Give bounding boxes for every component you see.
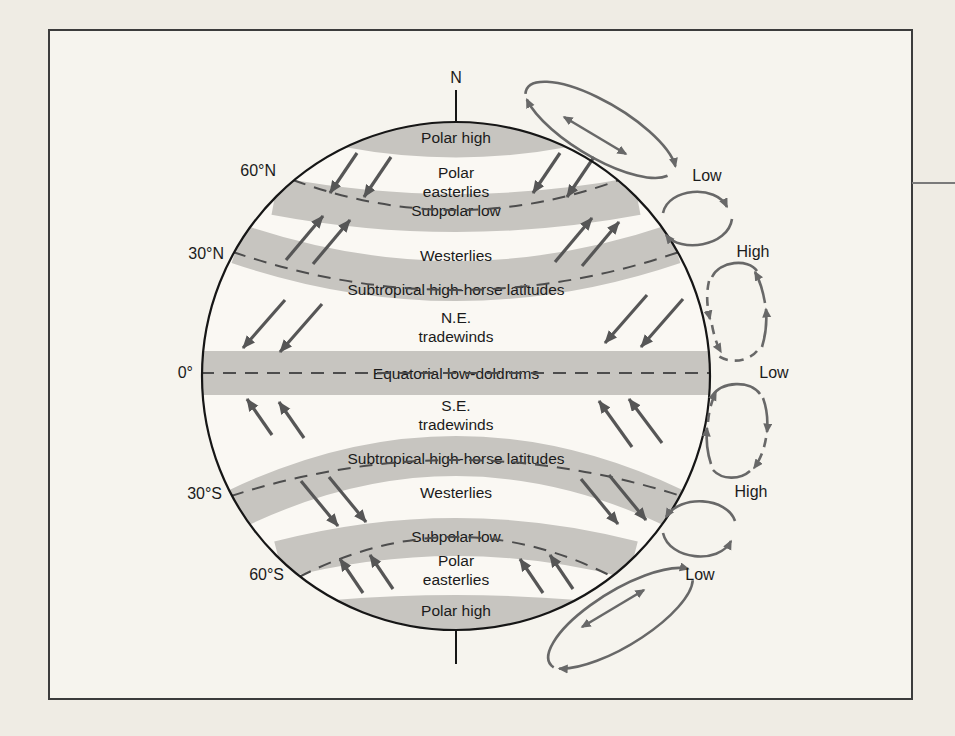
belt-label-polar-easterlies-s-1: Polar	[438, 552, 474, 569]
belt-label-polar-high-n: Polar high	[421, 129, 491, 146]
latitude-label-60n: 60°N	[240, 162, 276, 179]
belt-label-polar-easterlies-s-2: easterlies	[423, 571, 490, 588]
belt-label-westerlies-n: Westerlies	[420, 247, 492, 264]
belt-label-se-trades-1: S.E.	[441, 397, 470, 414]
scanned-textbook-page: Polar high Polar easterlies Subpolar low…	[0, 0, 955, 736]
pressure-label-low-60s: Low	[685, 566, 715, 583]
pressure-label-low-0: Low	[759, 364, 789, 381]
belt-label-subtropical-high-s: Subtropical high-horse latitudes	[347, 450, 564, 467]
pressure-label-high-30n: High	[737, 243, 770, 260]
belt-label-se-trades-2: tradewinds	[419, 416, 494, 433]
latitude-label-30s: 30°S	[187, 485, 222, 502]
wind-belts-diagram: Polar high Polar easterlies Subpolar low…	[0, 0, 955, 736]
north-pole-label: N	[450, 69, 462, 86]
pressure-label-high-30s: High	[735, 483, 768, 500]
belt-label-ne-trades-2: tradewinds	[419, 328, 494, 345]
pressure-label-low-60n: Low	[692, 167, 722, 184]
belt-label-polar-easterlies-n-1: Polar	[438, 164, 474, 181]
belt-label-ne-trades-1: N.E.	[441, 309, 471, 326]
belt-label-polar-high-s: Polar high	[421, 602, 491, 619]
latitude-label-60s: 60°S	[249, 566, 284, 583]
belt-label-westerlies-s: Westerlies	[420, 484, 492, 501]
latitude-label-0: 0°	[178, 364, 193, 381]
belt-label-polar-easterlies-n-2: easterlies	[423, 183, 490, 200]
latitude-label-30n: 30°N	[188, 245, 224, 262]
